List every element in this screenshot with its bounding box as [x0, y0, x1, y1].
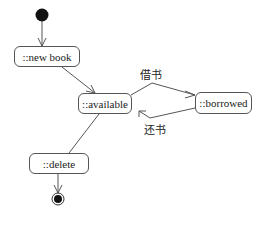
- transition-label-borrow: 借书: [140, 66, 162, 82]
- transition-label-return: 还书: [144, 121, 166, 137]
- state-new-book: ::new book: [14, 46, 80, 67]
- edge-available-delete: [69, 114, 99, 153]
- state-available: ::available: [78, 93, 132, 114]
- edge-borrowed-available: [139, 108, 195, 118]
- edge-newbook-available: [62, 67, 95, 93]
- final-node-core: [54, 195, 62, 203]
- edge-available-borrowed: [131, 83, 195, 95]
- initial-node: [36, 9, 49, 22]
- state-delete: ::delete: [29, 153, 89, 174]
- state-borrowed: ::borrowed: [195, 92, 252, 114]
- arrowhead-icon: [185, 91, 195, 98]
